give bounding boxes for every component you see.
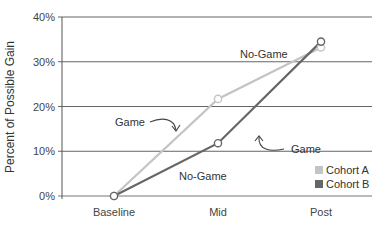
x-axis-ticks: BaselineMidPost	[93, 206, 332, 218]
y-tick-label: 0%	[39, 190, 55, 202]
data-point-marker	[214, 95, 221, 102]
x-tick-label: Post	[310, 206, 332, 218]
legend-label-cohort-a: Cohort A	[326, 164, 369, 176]
y-tick-label: 40%	[33, 11, 55, 23]
annotation-no-game-top: No-Game	[240, 48, 288, 60]
curved-arrow-icon	[259, 137, 284, 150]
legend-label-cohort-b: Cohort B	[326, 178, 369, 190]
annotation-game-right: Game	[291, 143, 321, 155]
y-axis-ticks: 0%10%20%30%40%	[33, 11, 55, 202]
data-point-marker	[110, 192, 117, 199]
curved-arrow-icon	[150, 119, 176, 130]
x-tick-label: Mid	[209, 206, 227, 218]
line-chart: 0%10%20%30%40% Percent of Possible Gain …	[0, 0, 389, 229]
annotation-game-left: Game	[115, 116, 145, 128]
legend-swatch-cohort-a	[315, 166, 323, 174]
data-point-marker	[317, 38, 324, 45]
y-tick-label: 20%	[33, 101, 55, 113]
legend: Cohort A Cohort B	[315, 164, 369, 190]
legend-swatch-cohort-b	[315, 180, 323, 188]
data-point-marker	[214, 140, 221, 147]
y-axis-label: Percent of Possible Gain	[3, 41, 17, 173]
x-tick-label: Baseline	[93, 206, 135, 218]
y-tick-label: 30%	[33, 56, 55, 68]
y-tick-label: 10%	[33, 145, 55, 157]
annotation-no-game-bottom: No-Game	[179, 170, 227, 182]
